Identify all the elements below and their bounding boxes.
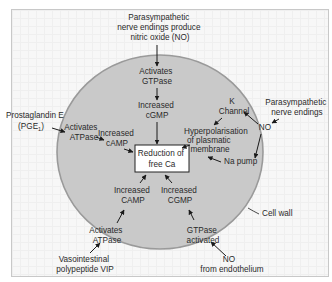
top-source-label: Parasympathetic nerve endings produce ni… [117,13,203,42]
gtpase-activated-label: GTPase activated [187,226,220,245]
cell-diagram: Reduction of free Ca Parasympathetic ner… [0,0,332,282]
no-endothelium-label: NO from endothelium [200,255,263,274]
prostaglandin-label: Prostaglandin E (PGE1) [6,111,66,132]
activates-atpase-bottom-label: Activates ATPase [89,226,125,245]
arrow-parasym-to-no [272,119,279,123]
no-right-label: NO [259,123,271,132]
vip-label: Vasointestinal polypeptide VIP [56,255,114,274]
na-pump-label: Na pump [224,157,258,166]
parasympathetic-right-label: Parasympathetic nerve endings [265,98,328,117]
cell-wall-pointer [248,208,259,214]
cell-wall-label: Cell wall [262,209,293,218]
activates-atpase-left-label: Activates ATPase [64,123,100,142]
activates-gtpase-label: Activates GTPase [139,67,175,86]
